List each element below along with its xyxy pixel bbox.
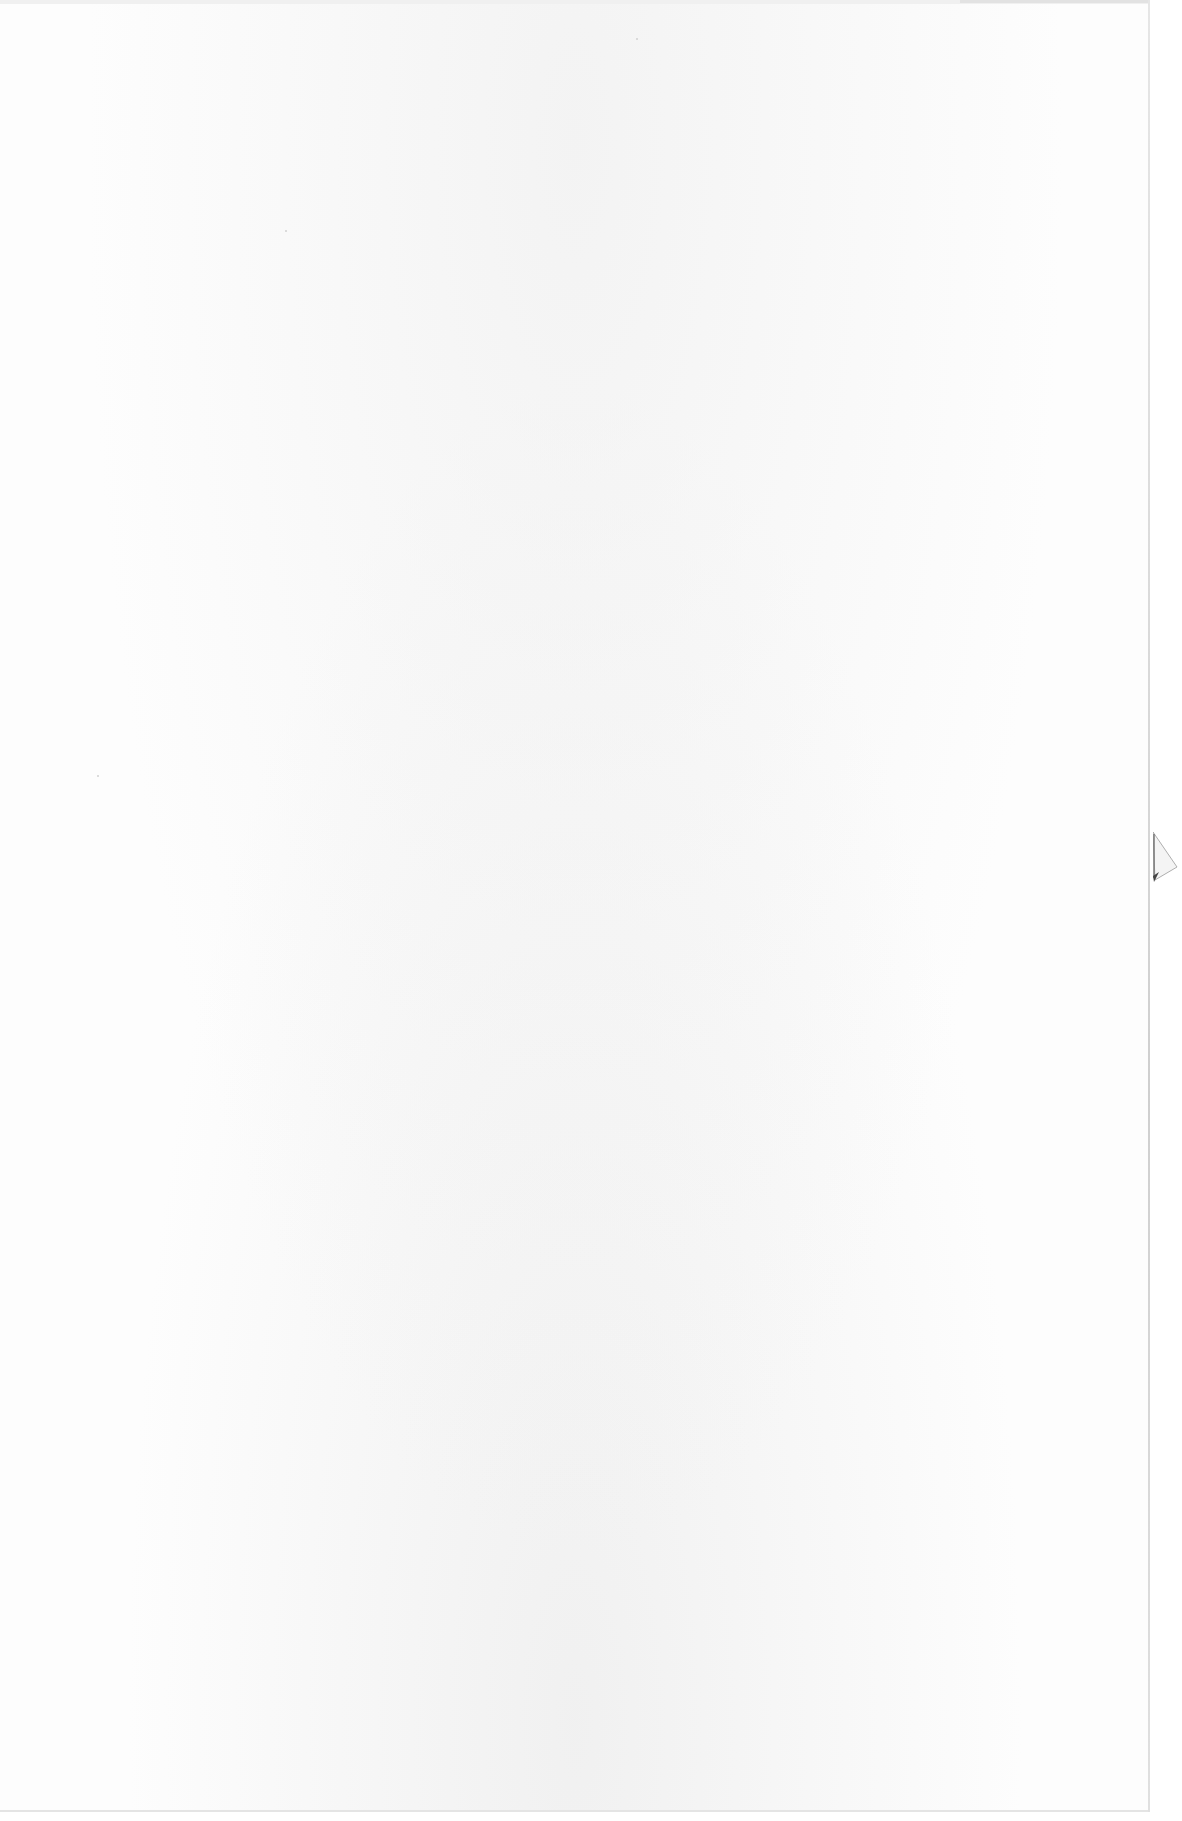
page-right-edge-line [1148, 0, 1150, 1812]
scan-speck [285, 230, 287, 232]
scan-speck [636, 38, 638, 40]
page-right-margin [1150, 0, 1182, 1821]
blank-page [0, 0, 1150, 1812]
folded-corner-icon [1153, 832, 1179, 882]
page-top-right-edge [960, 0, 1150, 3]
scan-speck [97, 775, 99, 777]
page-bottom-edge [0, 1810, 1150, 1812]
